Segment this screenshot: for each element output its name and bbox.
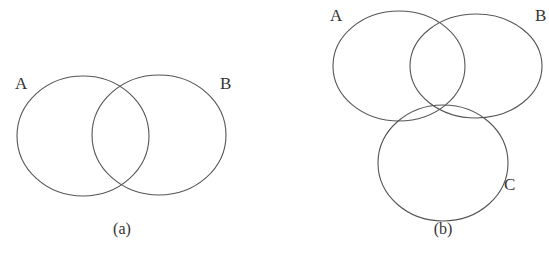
set-a-label: A [15, 74, 28, 93]
set-b-ellipse [92, 75, 226, 195]
venn-three-sets: A B C (b) [330, 6, 546, 238]
set-b-label: B [220, 74, 231, 93]
caption-b: (b) [434, 220, 453, 238]
caption-a: (a) [113, 220, 131, 238]
set-c-ellipse [378, 105, 508, 221]
set-b-ellipse [410, 14, 542, 118]
set-a-label: A [330, 6, 343, 25]
venn-two-sets: A B (a) [15, 74, 231, 238]
set-a-ellipse [17, 76, 149, 196]
set-b-label: B [535, 6, 546, 25]
set-c-label: C [504, 175, 515, 194]
venn-diagrams: A B (a) A B C (b) [0, 0, 549, 253]
